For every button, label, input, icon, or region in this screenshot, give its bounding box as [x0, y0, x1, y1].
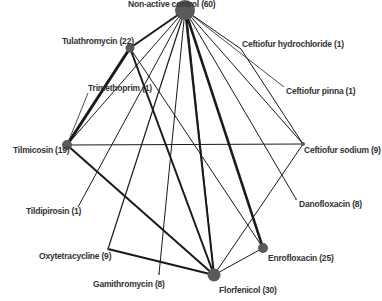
- edge-tul-til: [67, 48, 130, 145]
- node-flo: [208, 269, 221, 282]
- node-label-gam: Gamithromycin (8): [93, 279, 165, 289]
- edge-nac-chc: [185, 10, 241, 49]
- edge-nac-til: [67, 10, 185, 145]
- node-label-cpi: Ceftiofur pinna (1): [286, 86, 355, 96]
- edge-nac-cso: [185, 10, 303, 144]
- node-label-tild: Tildipirosin (1): [26, 206, 81, 216]
- edges-layer: [67, 10, 303, 275]
- node-label-tri: Trimethoprim (1): [88, 83, 152, 93]
- node-enr: [258, 243, 268, 253]
- node-label-dan: Danofloxacin (8): [299, 199, 362, 209]
- node-gam: [158, 273, 160, 275]
- node-label-enr: Enrofloxacin (25): [268, 253, 334, 263]
- edge-chc-cso: [241, 49, 303, 144]
- node-dan: [295, 198, 297, 200]
- node-oxy: [107, 248, 109, 250]
- node-label-nac: Non-active control (60): [128, 0, 216, 9]
- node-label-oxy: Oxytetracycline (9): [39, 251, 111, 261]
- node-label-til: Tilmicosin (19): [13, 145, 69, 155]
- edge-nac-tul: [130, 10, 185, 48]
- node-label-cso: Ceftiofur sodium (9): [304, 145, 381, 155]
- node-label-flo: Florfenicol (30): [219, 285, 277, 295]
- node-label-chc: Ceftiofur hydrochloride (1): [242, 39, 344, 49]
- node-label-tul: Tulathromycin (22): [62, 36, 134, 46]
- edge-flo-enr: [214, 248, 263, 275]
- edge-til-cso: [67, 144, 303, 145]
